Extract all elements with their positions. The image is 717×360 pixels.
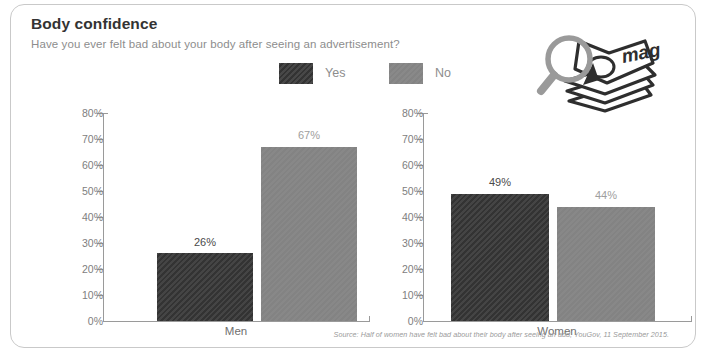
y-tick-0-women: 0% <box>391 315 423 327</box>
legend-label-yes: Yes <box>325 66 345 80</box>
y-tick-50-men: 50% <box>71 185 103 197</box>
y-tick-20-men: 20% <box>71 263 103 275</box>
legend-label-no: No <box>435 66 451 80</box>
y-tick-70-women: 70% <box>391 133 423 145</box>
chart-subtitle: Have you ever felt bad about your body a… <box>31 38 400 50</box>
y-tick-30-women: 30% <box>391 237 423 249</box>
x-axis-category-men: Men <box>103 325 369 337</box>
bar-women-no[interactable] <box>557 207 655 321</box>
y-axis-line-men <box>103 113 104 321</box>
bar-women-yes[interactable] <box>451 194 549 321</box>
y-tick-40-men: 40% <box>71 211 103 223</box>
magazine-magnifier-icon: mag <box>535 23 687 115</box>
legend-swatch-yes-icon <box>279 63 313 84</box>
y-axis-top-cap-men <box>103 113 108 114</box>
y-tick-80-men: 80% <box>71 107 103 119</box>
y-tick-60-men: 60% <box>71 159 103 171</box>
y-tick-20-women: 20% <box>391 263 423 275</box>
svg-text:mag: mag <box>620 39 663 67</box>
y-tick-50-women: 50% <box>391 185 423 197</box>
x-axis-line-men <box>103 321 369 322</box>
bar-men-yes[interactable] <box>157 253 253 321</box>
y-tick-10-women: 10% <box>391 289 423 301</box>
chart-panel-men: 80% 70% 60% 50% 40% 30% 20% 10% 0% 26% 6… <box>63 105 373 337</box>
y-axis-top-cap-women <box>423 113 428 114</box>
y-tick-80-women: 80% <box>391 107 423 119</box>
source-attribution: Source: Half of women have felt bad abou… <box>334 330 669 339</box>
y-tick-0-men: 0% <box>71 315 103 327</box>
y-tick-10-men: 10% <box>71 289 103 301</box>
y-tick-70-men: 70% <box>71 133 103 145</box>
y-axis-line-women <box>423 113 424 321</box>
x-axis-end-cap-men <box>369 316 370 322</box>
bar-label-women-no: 44% <box>557 189 655 201</box>
x-axis-end-cap-women <box>691 316 692 322</box>
chart-panel-women: 80% 70% 60% 50% 40% 30% 20% 10% 0% 49% 4… <box>383 105 695 337</box>
bar-men-no[interactable] <box>261 147 357 321</box>
page-title: Body confidence <box>31 15 157 33</box>
chart-card: Body confidence Have you ever felt bad a… <box>10 4 696 348</box>
y-axis-labels-women: 80% 70% 60% 50% 40% 30% 20% 10% 0% <box>383 105 423 337</box>
bar-label-men-no: 67% <box>261 129 357 141</box>
bar-label-women-yes: 49% <box>451 176 549 188</box>
legend-swatch-no-icon <box>389 63 423 84</box>
y-axis-labels-men: 80% 70% 60% 50% 40% 30% 20% 10% 0% <box>63 105 103 337</box>
y-tick-40-women: 40% <box>391 211 423 223</box>
y-tick-30-men: 30% <box>71 237 103 249</box>
x-axis-line-women <box>423 321 691 322</box>
y-tick-60-women: 60% <box>391 159 423 171</box>
bar-label-men-yes: 26% <box>157 236 253 248</box>
